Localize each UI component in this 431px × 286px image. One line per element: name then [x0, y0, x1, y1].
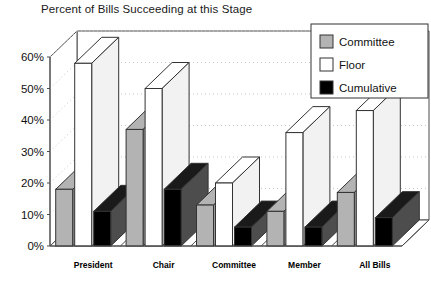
x-axis-tick-label: Member [288, 260, 321, 270]
bar-front-face [75, 63, 92, 246]
bar-chart: Percent of Bills Succeeding at this Stag… [0, 0, 431, 286]
y-axis-tick-label: 0% [27, 240, 44, 252]
bar-front-face [305, 227, 322, 246]
bar-front-face [126, 129, 143, 246]
x-axis-tick-label: President [74, 260, 113, 270]
bar-front-face [356, 111, 373, 246]
bar-front-face [375, 218, 392, 246]
x-axis-tick-label: Committee [212, 260, 256, 270]
y-axis-tick-label: 50% [21, 83, 44, 95]
bar-front-face [267, 211, 284, 246]
x-axis-tick-label: Chair [153, 260, 175, 270]
legend-label-floor: Floor [339, 59, 365, 71]
legend-label-committee: Committee [339, 36, 395, 48]
bar-front-face [216, 183, 233, 246]
bar-front-face [286, 133, 303, 246]
y-axis-tick-label: 60% [21, 51, 44, 63]
bar-front-face [164, 189, 181, 246]
legend-swatch-cumulative [320, 81, 333, 94]
bar-front-face [337, 192, 354, 246]
y-axis-tick-label: 30% [21, 146, 44, 158]
y-axis-tick-label: 10% [21, 209, 44, 221]
bar-front-face [235, 227, 252, 246]
legend-swatch-committee [320, 35, 333, 48]
bar-front-face [56, 189, 73, 246]
bar-front-face [197, 205, 214, 246]
legend-label-cumulative: Cumulative [339, 82, 397, 94]
x-axis-tick-label: All Bills [359, 260, 390, 270]
y-axis-tick-label: 40% [21, 114, 44, 126]
y-axis-tick-label: 20% [21, 177, 44, 189]
bar-front-face [145, 89, 162, 247]
legend-swatch-floor [320, 58, 333, 71]
chart-canvas: 0%10%20%30%40%50%60%PresidentChairCommit… [0, 0, 431, 286]
bar-front-face [94, 211, 111, 246]
